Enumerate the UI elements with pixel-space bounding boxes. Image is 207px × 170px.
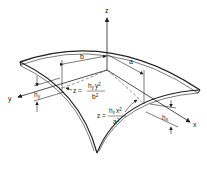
- eq-x-numerator: hxx2: [109, 107, 122, 115]
- eq-x-lhs: z =: [97, 112, 106, 119]
- shell-left-edge: [20, 62, 97, 153]
- x-axis: [107, 70, 190, 122]
- hx-label: hx: [162, 114, 169, 122]
- shell-top-edge: [20, 51, 200, 90]
- equation-x-curve: z = hxx2 a2: [97, 100, 137, 125]
- eq-y-lhs: z =: [73, 87, 82, 94]
- x-section-curve: [107, 70, 143, 103]
- hy-label: hy: [34, 91, 41, 99]
- eq-y-numerator: hyy2: [88, 82, 101, 90]
- shell-surface: [20, 51, 200, 153]
- eq-y-denominator: b2: [92, 93, 99, 100]
- shell-diagram: z y x b a hy hx z = hyy2 b2: [0, 0, 207, 170]
- b-dim-line: [63, 56, 106, 64]
- a-label: a: [129, 58, 133, 65]
- b-label: b: [80, 53, 84, 60]
- eq-x-denominator: a2: [113, 118, 120, 125]
- dimension-a: [108, 55, 144, 104]
- x-axis-label: x: [193, 121, 197, 128]
- y-axis-label: y: [8, 95, 12, 103]
- eq-y-pointer: [66, 88, 72, 90]
- equation-y-curve: z = hyy2 b2: [66, 82, 105, 100]
- a-dim-line: [108, 55, 143, 74]
- z-axis-label: z: [105, 7, 109, 14]
- hx-ext-top: [150, 104, 176, 108]
